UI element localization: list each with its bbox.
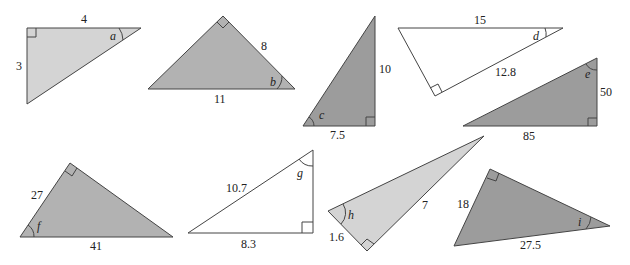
angle-label: i (578, 215, 581, 229)
angle-label: h (348, 208, 354, 222)
triangle-e: 50 85 e (463, 58, 612, 143)
triangle-d: 15 12.8 d (398, 13, 563, 96)
side-label: 50 (600, 85, 612, 99)
side-label: 1.6 (329, 230, 344, 244)
triangle-c-shape (303, 16, 375, 126)
angle-label: e (585, 67, 591, 81)
side-label: 18 (457, 197, 469, 211)
side-label: 3 (16, 59, 22, 73)
side-label: 10 (379, 62, 391, 76)
triangles-svg: 4 3 a 8 11 b 10 7.5 c 15 12.8 d 50 85 e (0, 0, 630, 265)
triangle-a: 4 3 a (16, 12, 141, 104)
triangle-f: 27 41 f (20, 163, 173, 253)
triangle-diagram: 4 3 a 8 11 b 10 7.5 c 15 12.8 d 50 85 e (0, 0, 630, 265)
triangle-i: 18 27.5 i (454, 169, 610, 252)
side-label: 41 (90, 239, 102, 253)
triangle-b: 8 11 b (148, 16, 295, 106)
side-label: 27 (31, 188, 43, 202)
side-label: 4 (81, 12, 87, 26)
side-label: 12.8 (495, 65, 516, 79)
side-label: 10.7 (226, 181, 247, 195)
triangle-g: 10.7 8.3 g (188, 150, 313, 251)
angle-label: c (319, 108, 325, 122)
angle-label: d (533, 29, 540, 43)
triangle-a-shape (27, 28, 141, 104)
angle-label: b (270, 75, 276, 89)
triangle-g-shape (188, 150, 313, 233)
side-label: 7 (422, 198, 428, 212)
side-label: 11 (214, 92, 226, 106)
triangle-c: 10 7.5 c (303, 16, 391, 142)
triangle-i-shape (454, 169, 610, 246)
side-label: 8 (261, 39, 267, 53)
side-label: 15 (474, 13, 486, 27)
angle-label: a (110, 29, 116, 43)
angle-label: g (297, 166, 303, 180)
side-label: 85 (523, 129, 535, 143)
side-label: 8.3 (241, 237, 256, 251)
side-label: 27.5 (520, 238, 541, 252)
side-label: 7.5 (330, 128, 345, 142)
